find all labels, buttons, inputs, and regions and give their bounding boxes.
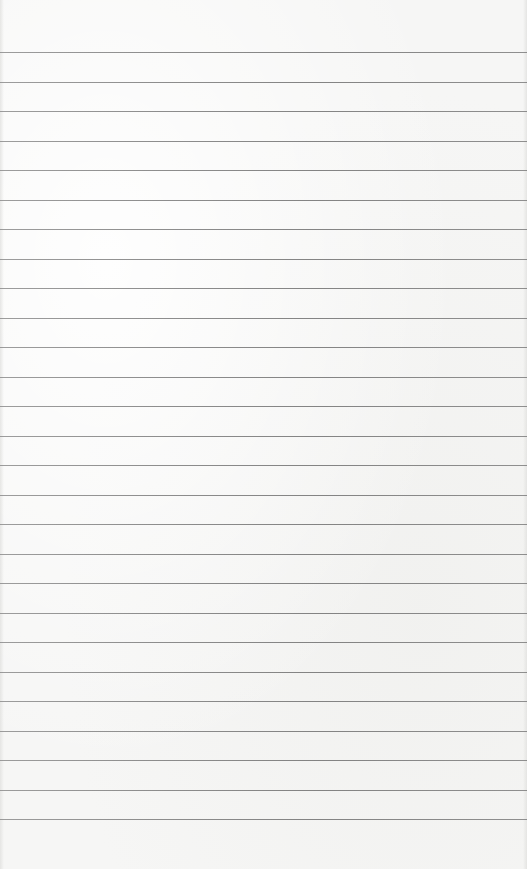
ruled-line	[0, 554, 527, 555]
paper-edge-left	[0, 0, 4, 869]
ruled-line	[0, 406, 527, 407]
ruled-line	[0, 524, 527, 525]
ruled-line	[0, 347, 527, 348]
ruled-line	[0, 701, 527, 702]
lined-paper-page	[0, 0, 527, 869]
paper-edge-right	[523, 0, 527, 869]
ruled-line	[0, 790, 527, 791]
ruled-line	[0, 52, 527, 53]
ruled-line	[0, 259, 527, 260]
ruled-line	[0, 318, 527, 319]
ruled-line	[0, 288, 527, 289]
ruled-line	[0, 731, 527, 732]
ruled-line	[0, 583, 527, 584]
ruled-line	[0, 436, 527, 437]
ruled-line	[0, 82, 527, 83]
ruled-line	[0, 377, 527, 378]
ruled-line	[0, 819, 527, 820]
ruled-line	[0, 642, 527, 643]
ruled-line	[0, 141, 527, 142]
ruled-line	[0, 200, 527, 201]
ruled-line	[0, 613, 527, 614]
ruled-line	[0, 229, 527, 230]
ruled-line	[0, 465, 527, 466]
ruled-line	[0, 111, 527, 112]
ruled-line	[0, 495, 527, 496]
ruled-line	[0, 170, 527, 171]
ruled-line	[0, 760, 527, 761]
ruled-line	[0, 672, 527, 673]
